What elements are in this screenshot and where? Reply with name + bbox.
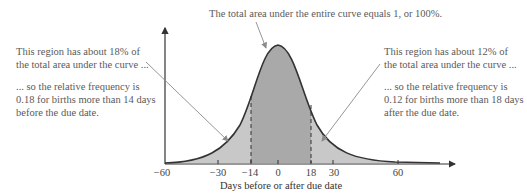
left-annotation-line2: the total area under the curve ... [16,59,149,72]
tick-label-minus30: −30 [210,167,226,178]
pointer-right [322,64,380,141]
left-annotation-line4: 0.18 for births more than 14 days [16,94,156,107]
left-annotation-line5: before the due date. [16,107,99,120]
right-annotation-line1: This region has about 12% of [384,46,508,59]
tick-label-0: 0 [275,167,280,178]
tick-label-60: 60 [393,167,404,178]
right-annotation-line3: ... so the relative frequency is [384,81,508,94]
tick-label-minus60: −60 [154,167,170,178]
pointer-left [146,62,228,141]
top-annotation: The total area under the entire curve eq… [209,8,442,21]
left-annotation-line3: ... so the relative frequency is [16,81,140,94]
right-annotation-line4: 0.12 for births more than 18 days [384,94,524,107]
tick-label-30: 30 [329,167,340,178]
tick-label-18: 18 [306,167,317,178]
x-axis-label: Days before or after due date [220,180,342,191]
left-annotation-line1: This region has about 18% of [16,46,140,59]
right-annotation-line5: after the due date. [384,107,459,120]
right-annotation-line2: the total area under the curve ... [384,59,517,72]
pointer-top [256,22,266,48]
tick-label-minus14: −14 [242,167,258,178]
